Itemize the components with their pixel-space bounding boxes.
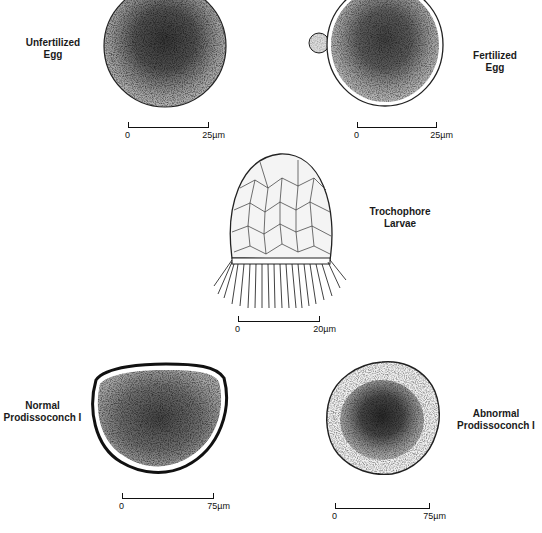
scale-line [128, 122, 209, 128]
scale-line [335, 503, 430, 509]
fertilized-egg-label: Fertilized Egg [465, 50, 525, 74]
scale-line [357, 122, 437, 128]
abnormal-prodissoconch-illustration [322, 358, 444, 478]
scale-zero: 0 [354, 130, 359, 140]
scale-zero: 0 [119, 501, 124, 511]
normal-prodissoconch-scale-bar: 0 75µm [122, 493, 214, 515]
scale-end: 25µm [430, 130, 453, 140]
abnormal-prodissoconch-scale-bar: 0 75µm [335, 503, 430, 525]
scale-end: 25µm [202, 130, 225, 140]
trochophore-larvae-label: Trochophore Larvae [360, 206, 440, 230]
scale-end: 75µm [423, 511, 446, 521]
fertilized-egg-scale-bar: 0 25µm [357, 122, 437, 144]
normal-prodissoconch-illustration [86, 358, 232, 476]
normal-prodissoconch-label: Normal Prodissoconch I [0, 400, 85, 424]
abnormal-prodissoconch-label: Abnormal Prodissoconch I [452, 408, 540, 432]
trochophore-larvae-scale-bar: 0 20µm [238, 316, 320, 338]
unfertilized-egg-label: Unfertilized Egg [18, 37, 88, 61]
scale-end: 20µm [313, 324, 336, 334]
scale-line [122, 493, 214, 499]
scale-end: 75µm [207, 501, 230, 511]
fertilized-egg-illustration [305, 0, 450, 112]
trochophore-larvae-illustration [210, 148, 350, 310]
scale-line [238, 316, 320, 322]
scale-zero: 0 [235, 324, 240, 334]
scale-zero: 0 [125, 130, 130, 140]
unfertilized-egg-scale-bar: 0 25µm [128, 122, 209, 144]
scale-zero: 0 [332, 511, 337, 521]
unfertilized-egg-illustration [100, 0, 230, 112]
